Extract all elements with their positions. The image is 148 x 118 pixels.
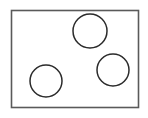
circle-top — [73, 14, 107, 48]
circle-right — [97, 54, 129, 86]
figure-canvas — [0, 0, 148, 118]
circle-bottom-left — [30, 65, 62, 97]
bounding-rectangle — [12, 11, 139, 108]
figure-svg — [0, 0, 148, 118]
